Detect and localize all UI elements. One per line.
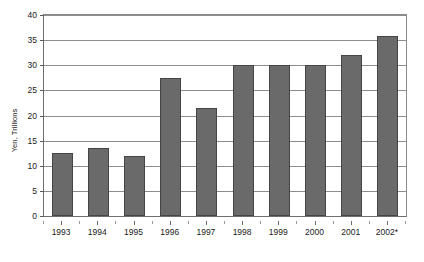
y-axis-title-text: Yen, Trillions [11, 108, 20, 152]
y-tick-mark [40, 65, 44, 66]
y-tick-label: 10 [28, 161, 37, 171]
x-tick-label: 1995 [124, 227, 143, 237]
x-boundary-tick [369, 221, 370, 224]
bar-2000 [305, 65, 326, 216]
y-tick-mark [40, 216, 44, 217]
y-tick-mark [40, 141, 44, 142]
x-tick-mark [351, 221, 352, 225]
x-tick-mark [61, 221, 62, 225]
y-tick-label: 20 [28, 111, 37, 121]
bar-chart: Yen, Trillions 0510152025303540 19931994… [0, 0, 424, 262]
x-tick-label: 1999 [269, 227, 288, 237]
y-tick-mark [40, 116, 44, 117]
bar-1999 [269, 65, 290, 216]
x-tick-label: 1998 [233, 227, 252, 237]
bar-1994 [88, 148, 109, 216]
x-tick-mark [134, 221, 135, 225]
x-tick-label: 1994 [88, 227, 107, 237]
x-tick-label: 2001 [341, 227, 360, 237]
x-tick-label: 1996 [160, 227, 179, 237]
x-tick-mark [315, 221, 316, 225]
x-boundary-tick [260, 221, 261, 224]
y-tick-label: 40 [28, 10, 37, 20]
x-boundary-tick [79, 221, 80, 224]
x-axis: 1993199419951996199719981999200020012002… [43, 221, 407, 243]
x-boundary-tick [115, 221, 116, 224]
y-tick-label: 35 [28, 35, 37, 45]
y-tick-mark [40, 40, 44, 41]
x-boundary-tick [296, 221, 297, 224]
x-boundary-tick [152, 221, 153, 224]
bars-layer [44, 15, 406, 216]
x-boundary-tick [405, 221, 406, 224]
plot-area: 0510152025303540 [43, 14, 407, 217]
x-tick-label: 2002* [376, 227, 398, 237]
x-tick-mark [170, 221, 171, 225]
bar-1995 [124, 156, 145, 216]
x-tick-mark [242, 221, 243, 225]
x-tick-label: 1997 [196, 227, 215, 237]
y-tick-mark [40, 15, 44, 16]
x-boundary-tick [43, 221, 44, 224]
y-tick-label: 25 [28, 85, 37, 95]
x-boundary-tick [333, 221, 334, 224]
bar-1998 [233, 65, 254, 216]
y-tick-label: 30 [28, 60, 37, 70]
y-axis-title: Yen, Trillions [6, 90, 24, 170]
x-tick-mark [206, 221, 207, 225]
x-tick-mark [387, 221, 388, 225]
x-tick-mark [97, 221, 98, 225]
y-tick-mark [40, 166, 44, 167]
bar-2002-est [377, 36, 398, 216]
x-tick-label: 2000 [305, 227, 324, 237]
y-tick-label: 15 [28, 136, 37, 146]
y-tick-label: 0 [32, 211, 37, 221]
x-tick-mark [278, 221, 279, 225]
bar-2001 [341, 55, 362, 216]
bar-1997 [196, 108, 217, 216]
bar-1996 [160, 78, 181, 216]
x-boundary-tick [224, 221, 225, 224]
y-tick-mark [40, 90, 44, 91]
y-tick-label: 5 [32, 186, 37, 196]
x-boundary-tick [188, 221, 189, 224]
x-tick-label: 1993 [52, 227, 71, 237]
bar-1993 [52, 153, 73, 216]
y-tick-mark [40, 191, 44, 192]
